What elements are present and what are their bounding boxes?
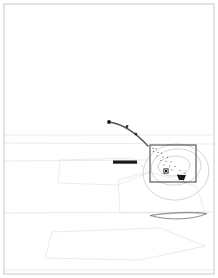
survey-point <box>161 153 162 154</box>
scale-bar <box>113 161 137 164</box>
plan-drawing-canvas <box>0 0 218 278</box>
scanned-plan-page <box>0 0 218 278</box>
survey-point <box>158 152 159 153</box>
survey-point <box>171 162 172 163</box>
survey-point <box>161 160 162 161</box>
survey-point <box>167 157 168 158</box>
survey-point <box>153 151 154 152</box>
route-start-dot <box>107 120 111 124</box>
survey-point <box>172 170 173 171</box>
survey-point <box>164 165 165 166</box>
paper-background <box>0 0 218 278</box>
station-inner-square <box>165 170 167 172</box>
survey-point <box>175 166 176 167</box>
survey-point <box>178 174 179 175</box>
survey-point <box>156 148 157 149</box>
survey-point <box>169 166 170 167</box>
survey-point <box>185 173 186 174</box>
survey-point <box>163 157 164 158</box>
survey-point <box>166 161 167 162</box>
survey-point <box>180 170 181 171</box>
survey-point <box>157 156 158 157</box>
survey-point <box>152 148 153 149</box>
